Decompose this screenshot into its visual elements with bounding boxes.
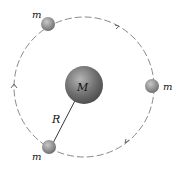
orbiting-mass-right	[145, 79, 159, 93]
orbiting-mass-label-top-left: m	[32, 9, 41, 20]
orbiting-mass-label-right: m	[163, 81, 172, 92]
orbiting-mass-bottom-left	[42, 140, 56, 154]
orbiting-mass-top-left	[41, 17, 55, 31]
central-mass-label: M	[76, 81, 89, 94]
orbiting-mass-label-bottom-left: m	[32, 151, 41, 162]
orbit-arrow-top	[115, 25, 119, 29]
radius-label: R	[51, 113, 60, 126]
orbit-diagram: M R m m m	[0, 0, 182, 169]
